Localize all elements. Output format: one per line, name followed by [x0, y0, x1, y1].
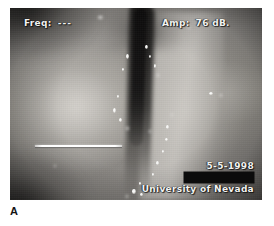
figure-panel: Freq:--- Amp:76 dB. 5-5-1998 University … — [0, 0, 274, 226]
amplitude-value: 76 dB. — [196, 18, 230, 28]
redaction-bar — [184, 172, 254, 183]
frequency-label: Freq: — [24, 18, 52, 28]
calibration-line — [35, 145, 122, 147]
institution-label: University of Nevada — [142, 184, 254, 194]
amplitude-readout: Amp:76 dB. — [162, 18, 230, 28]
frequency-readout: Freq:--- — [24, 18, 72, 28]
panel-label: A — [10, 205, 18, 217]
date-stamp: 5-5-1998 — [207, 161, 254, 171]
endoscopic-photograph: Freq:--- Amp:76 dB. 5-5-1998 University … — [10, 8, 262, 200]
amplitude-label: Amp: — [162, 18, 190, 28]
frequency-value: --- — [58, 18, 72, 28]
